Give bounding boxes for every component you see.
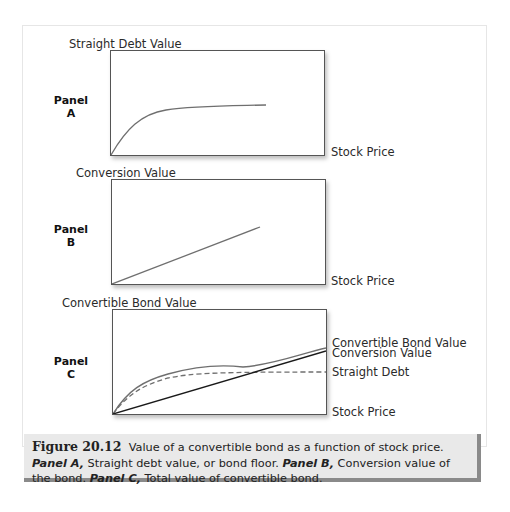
label-straight-debt: Straight Debt [332,366,409,378]
panel-c-y-title: Convertible Bond Value [62,296,197,310]
panel-c-label: Panel C [41,355,101,381]
caption-panel-c-text: Total value of convertible bond. [145,472,323,485]
panel-b-x-title: Stock Price [331,274,395,288]
panel-b-label: Panel B [41,223,101,249]
straight-debt-curve [111,105,266,155]
panel-a-label-line2: A [41,107,101,120]
panel-a-chart [111,51,324,155]
caption-panel-b-name: Panel B, [282,457,334,470]
panel-a-label: Panel A [41,94,101,120]
panel-c-label-line2: C [41,368,101,381]
conversion-value-line [112,227,260,284]
panel-a-label-line1: Panel [41,94,101,107]
figure-caption: Figure 20.12 Value of a convertible bond… [24,434,481,482]
caption-panel-a-name: Panel A, [32,457,84,470]
panel-c-label-line1: Panel [41,355,101,368]
panel-a-x-title: Stock Price [331,145,395,159]
panel-a-y-title: Straight Debt Value [69,37,182,51]
caption-panel-a-text: Straight debt value, or bond floor. [88,457,279,470]
panel-c-x-title: Stock Price [332,405,396,419]
panel-b-plot [111,179,326,285]
panel-b-chart [112,180,325,284]
label-conversion-value: Conversion Value [332,347,432,359]
caption-panel-c-name: Panel C, [90,472,141,485]
straight-debt-dashed-curve [113,372,326,414]
panel-b-label-line2: B [41,236,101,249]
panel-c-chart [113,310,326,414]
panel-b-y-title: Conversion Value [76,166,176,180]
panel-a-plot [110,50,325,156]
panel-b-label-line1: Panel [41,223,101,236]
caption-intro: Value of a convertible bond as a functio… [129,441,444,454]
panel-c-plot [112,309,327,415]
figure-number: Figure 20.12 [32,439,121,454]
